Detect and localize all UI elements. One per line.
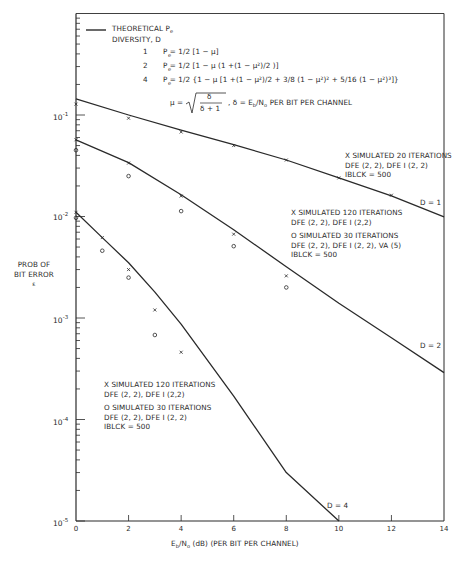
x-tick-label: 4	[179, 525, 184, 535]
y-tick-label: 10-4	[53, 415, 68, 427]
label-d4: D = 4	[327, 501, 348, 511]
x-tick-label: 0	[74, 525, 79, 535]
x-tick-label: 10	[334, 525, 343, 535]
x-tick-label: 6	[231, 525, 236, 535]
formula-pe-sub: e	[168, 65, 171, 75]
formula-number-2: 2	[143, 61, 148, 71]
formula-number-4: 4	[143, 75, 148, 85]
formula-pe-sub: e	[168, 51, 171, 61]
axis-ticks	[76, 18, 391, 521]
y-axis-label: PROB OF BIT ERROR ε	[12, 260, 56, 289]
y-tick-label: 10-2	[53, 210, 68, 222]
x-tick-label: 8	[284, 525, 289, 535]
formula-pe-sub: e	[168, 79, 171, 89]
x-tick-label: 12	[387, 525, 396, 535]
formula-d2: P = 1/2 [1 − μ (1 +(1 − μ²)/2 )]	[163, 61, 279, 71]
mu-numerator: δ	[207, 92, 212, 102]
annotation-d4-sim: X SIMULATED 120 ITERATIONS DFE (2, 2), D…	[104, 380, 215, 432]
formula-d1: P = 1/2 [1 − μ]	[163, 47, 219, 57]
annotation-d1-sim: X SIMULATED 20 ITERATIONS DFE (2, 2), DF…	[345, 151, 452, 180]
label-d2: D = 2	[420, 341, 441, 351]
formula-number-1: 1	[143, 47, 148, 57]
y-tick-label: 10-5	[53, 516, 68, 528]
x-tick-label: 14	[439, 525, 448, 535]
legend-title: THEORETICAL Pe DIVERSITY, D	[112, 24, 173, 44]
annotation-d2-sim: X SIMULATED 120 ITERATIONS DFE (2, 2), D…	[291, 208, 402, 260]
x-axis-label: Eb/No (dB) (PER BIT PER CHANNEL)	[171, 539, 299, 552]
label-d1: D = 1	[420, 198, 441, 208]
mu-definition-right: , δ = Eb/No PER BIT PER CHANNEL	[228, 98, 352, 111]
formula-d4: P = 1/2 {1 − μ [1 +(1 − μ²)/2 + 3/8 (1 −…	[163, 75, 399, 85]
y-tick-label: 10-3	[53, 313, 68, 325]
plot-frame	[76, 14, 444, 522]
y-tick-label: 10-1	[53, 110, 68, 122]
mu-definition-left: μ =	[170, 98, 183, 108]
mu-denominator: δ + 1	[200, 104, 220, 114]
x-tick-label: 2	[126, 525, 131, 535]
